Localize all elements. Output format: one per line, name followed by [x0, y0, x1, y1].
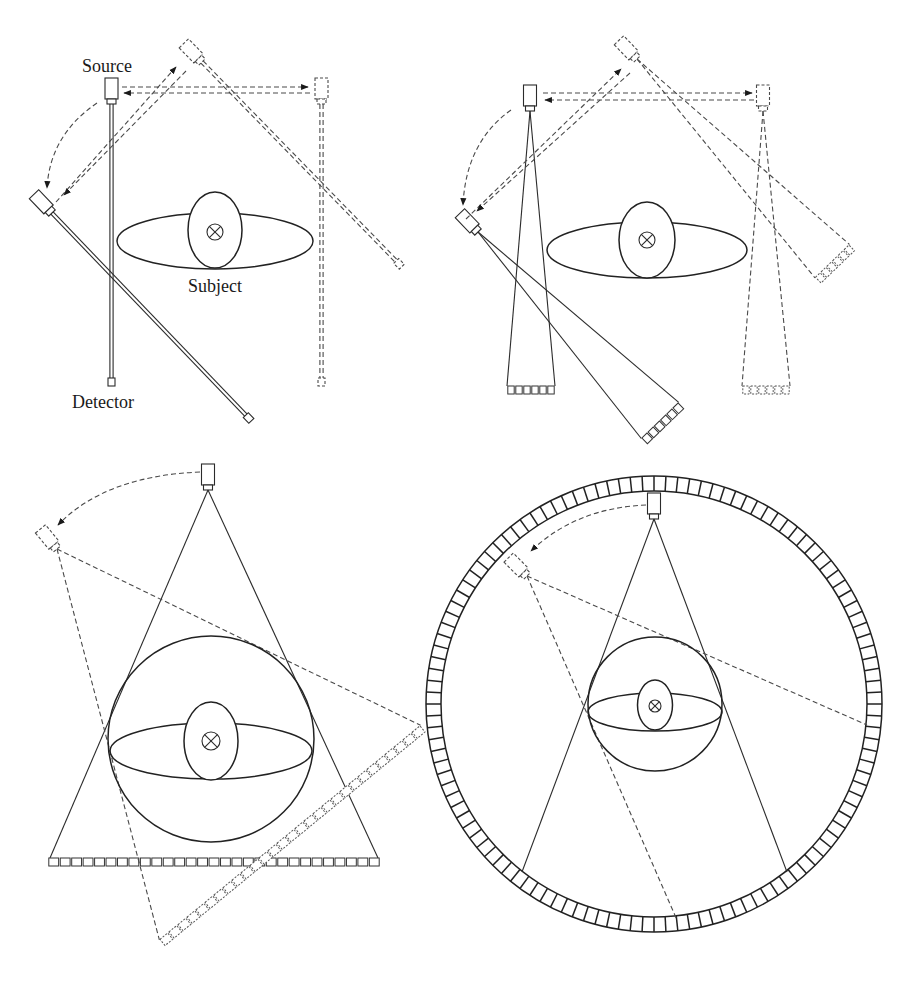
x-ray-source-icon: [315, 78, 328, 99]
source-collimator: [526, 106, 535, 111]
panel-b-second-generation: [441, 24, 855, 445]
single-detector-icon: [108, 378, 115, 386]
ring-detector-element: [530, 513, 538, 526]
ring-detector-element: [698, 481, 701, 496]
ring-detector-element: [441, 780, 455, 785]
ring-detector-element: [451, 600, 464, 607]
translate-arrow-diagonal-down-icon: [477, 73, 630, 211]
ring-detector-element: [788, 870, 797, 882]
ring-detector-element: [572, 491, 577, 505]
source-fan-beam: [648, 493, 661, 519]
ring-detector-element: [437, 770, 451, 775]
detector-element: [516, 386, 522, 394]
detector-element: [369, 858, 379, 866]
detector-element: [129, 858, 139, 866]
ring-detector-element: [451, 801, 464, 808]
ring-detector-element: [446, 611, 460, 617]
fan-beam-edge: [654, 519, 787, 872]
detector-element: [163, 858, 173, 866]
ring-detector-element: [866, 680, 881, 682]
ring-detector-element: [860, 645, 874, 649]
single-detector-icon: [318, 378, 325, 386]
source-collimator: [317, 99, 326, 104]
detector-element: [767, 386, 773, 394]
x-ray-source-icon: [648, 493, 661, 514]
source-label: Source: [82, 56, 132, 76]
ring-detector-element: [618, 479, 620, 494]
ring-detector-element: [463, 580, 476, 588]
detector-element: [335, 858, 345, 866]
single-detector-icon: [243, 413, 254, 424]
fan-beam-edge: [208, 490, 378, 858]
ring-detector-element: [860, 759, 874, 763]
ring-detector-element: [457, 811, 470, 819]
ring-detector-element: [584, 487, 589, 501]
fan-beam-edge: [530, 111, 555, 386]
ring-detector-element: [561, 496, 567, 510]
ring-detector-element: [826, 829, 838, 838]
ct-scanner-generations-diagram: Source: [0, 0, 915, 982]
ring-detector-element: [862, 657, 877, 660]
ring-detector-element: [457, 590, 470, 598]
ring-detector-element: [751, 501, 758, 514]
source-collimator: [107, 99, 116, 104]
ring-detector-element: [446, 791, 460, 797]
ring-detector-element: [741, 496, 747, 510]
subject-phantom: [588, 637, 722, 771]
ring-detector-element: [431, 748, 446, 751]
ring-detector-element: [630, 916, 632, 931]
ring-detector-element: [864, 668, 879, 670]
ring-detector-element: [820, 838, 832, 847]
detector-element: [301, 858, 311, 866]
ring-detector-element: [434, 645, 448, 649]
detector-element: [117, 858, 127, 866]
fan-beam-edge: [0, 549, 290, 940]
ring-detector-element: [844, 801, 857, 808]
ring-detector-element: [665, 476, 666, 491]
ring-detector-element: [730, 491, 735, 505]
detector-element: [759, 386, 765, 394]
ring-detector-element: [431, 657, 446, 660]
fan-beam-edge: [50, 490, 208, 858]
ring-detector-element: [665, 917, 666, 932]
source-translated-position: [757, 85, 770, 111]
detector-element: [751, 386, 757, 394]
ring-detector-element: [437, 634, 451, 639]
ring-detector-element: [434, 759, 448, 763]
fan-beam-edge: [527, 576, 677, 920]
ring-detector-element: [709, 484, 713, 498]
ring-detector-element: [477, 838, 489, 847]
ring-detector-element: [463, 820, 476, 828]
ring-detector-element: [584, 907, 589, 921]
single-detector-icon: [394, 259, 405, 270]
ring-detector-element: [642, 476, 643, 491]
source-pencil-beam: [105, 78, 118, 386]
ring-detector-element: [676, 916, 678, 931]
ring-detector-element: [426, 692, 441, 693]
ring-detector-element: [511, 870, 520, 882]
ring-detector-element: [826, 570, 838, 579]
ring-detector-element: [838, 590, 851, 598]
x-ray-source-icon: [757, 85, 770, 106]
rotation-arrow-icon: [47, 103, 97, 188]
ring-detector-element: [866, 726, 881, 728]
ring-detector-element: [550, 501, 557, 514]
ring-detector-element: [530, 883, 538, 896]
ring-detector-element: [788, 527, 797, 539]
ring-detector-element: [849, 611, 863, 617]
ring-detector-element: [520, 876, 529, 888]
ring-detector-element: [561, 899, 567, 913]
ring-detector-element: [501, 535, 511, 546]
ring-detector-element: [853, 622, 867, 627]
subject-label: Subject: [188, 276, 242, 296]
ring-detector-element: [797, 862, 807, 873]
rotation-arrow-icon: [58, 472, 200, 525]
ring-detector-element: [779, 520, 788, 532]
ring-detector-element: [470, 829, 482, 838]
panel-a-first-generation: Source: [29, 39, 406, 426]
panel-c-third-generation: [0, 422, 426, 946]
fan-beam-edge: [763, 111, 790, 386]
ring-detector-element: [720, 487, 725, 501]
ring-detector-element: [849, 791, 863, 797]
ring-detector-element: [709, 910, 713, 924]
